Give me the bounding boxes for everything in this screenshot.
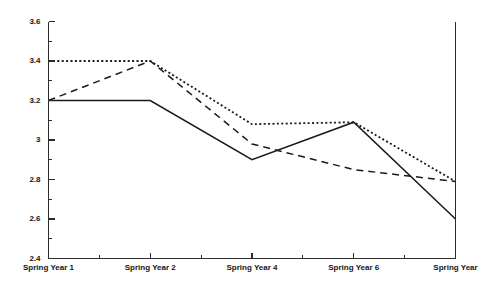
series-solid <box>49 101 456 220</box>
y-tick-label: 2.4 <box>29 254 41 263</box>
axis-frame <box>49 22 456 259</box>
x-axis-labels: Spring Year 1Spring Year 2Spring Year 4S… <box>23 263 478 272</box>
x-tick-label: Spring Year 4 <box>227 263 279 272</box>
y-tick-label: 3.2 <box>29 96 41 105</box>
y-tick-label: 2.6 <box>29 214 41 223</box>
x-tick-label: Spring Year 1 <box>23 263 75 272</box>
y-axis-ticks <box>49 22 55 259</box>
y-tick-label: 3.4 <box>29 56 41 65</box>
x-tick-label: Spring Year 2 <box>125 263 177 272</box>
series-group <box>49 61 456 219</box>
x-tick-label: Spring Year 6 <box>328 263 380 272</box>
y-axis-labels: 2.42.62.833.23.43.6 <box>29 17 41 263</box>
y-tick-label: 3.6 <box>29 17 41 26</box>
plot-frame <box>49 22 456 259</box>
y-tick-label: 2.8 <box>29 175 41 184</box>
series-dashed <box>49 61 456 181</box>
chart-canvas: 2.42.62.833.23.43.6 Spring Year 1Spring … <box>0 0 483 289</box>
series-dotted <box>49 61 456 181</box>
y-tick-label: 3 <box>36 135 41 144</box>
line-chart: 2.42.62.833.23.43.6 Spring Year 1Spring … <box>0 0 483 289</box>
x-axis-ticks <box>49 253 456 259</box>
x-tick-label: Spring Year <box>433 263 477 272</box>
